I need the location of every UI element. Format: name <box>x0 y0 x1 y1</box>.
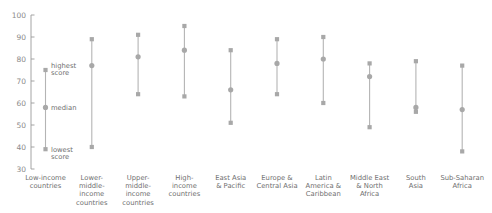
lowest-score-marker <box>368 125 372 129</box>
highest-score-marker <box>229 48 233 52</box>
lowest-score-marker <box>321 101 325 105</box>
range-marker-group <box>182 24 187 99</box>
x-axis-category-label: income <box>79 190 104 198</box>
x-axis-category-label: & North <box>356 182 382 190</box>
median-marker <box>228 87 233 92</box>
y-axis-tick-label: 70 <box>16 77 26 86</box>
y-axis-tick-label: 50 <box>16 121 26 130</box>
x-axis-category-label: middle- <box>79 182 105 190</box>
annotation-median: median <box>51 104 76 112</box>
x-axis-category-label: America & <box>306 182 342 190</box>
x-axis-category-label: middle- <box>125 182 151 190</box>
x-axis-category-label: Africa <box>453 182 472 190</box>
range-marker-group <box>228 48 233 125</box>
chart-canvas: 30405060708090100 Low-incomecountriesLow… <box>0 0 492 213</box>
median-marker <box>136 54 141 59</box>
highest-score-marker <box>90 37 94 41</box>
y-axis-tick-label: 30 <box>16 165 26 174</box>
range-chart: 30405060708090100 Low-incomecountriesLow… <box>0 0 492 213</box>
range-marker-group <box>321 35 326 105</box>
highest-score-marker <box>136 33 140 37</box>
median-marker <box>460 107 465 112</box>
highest-score-marker <box>368 61 372 65</box>
median-marker <box>274 61 279 66</box>
y-axis-tick-label: 40 <box>16 143 26 152</box>
lowest-score-marker <box>229 121 233 125</box>
x-axis-category-label: Upper- <box>127 174 150 182</box>
data-series-group <box>43 24 465 154</box>
highest-score-marker <box>414 59 418 63</box>
x-axis-category-label: countries <box>30 182 62 190</box>
range-marker-group <box>136 33 141 97</box>
x-axis-category-label: Lower- <box>81 174 104 182</box>
x-axis-category-label: Sub-Saharan <box>440 174 484 182</box>
annotation-lowest-score: score <box>51 153 69 161</box>
highest-score-marker <box>182 24 186 28</box>
x-axis-category-label: countries <box>169 190 201 198</box>
median-marker <box>89 63 94 68</box>
x-axis-category-labels: Low-incomecountriesLower-middle-incomeco… <box>25 174 484 207</box>
x-axis-category-label: income <box>172 182 197 190</box>
lowest-score-marker <box>182 94 186 98</box>
annotation-highest-score: score <box>51 69 69 77</box>
lowest-score-marker <box>43 147 47 151</box>
y-axis: 30405060708090100 <box>12 11 35 174</box>
highest-score-marker <box>460 64 464 68</box>
y-axis-tick-label: 90 <box>16 33 26 42</box>
lowest-score-marker <box>414 110 418 114</box>
x-axis-category-label: Asia <box>409 182 423 190</box>
median-marker <box>182 48 187 53</box>
lowest-score-marker <box>136 92 140 96</box>
y-axis-tick-label: 100 <box>12 11 27 20</box>
x-axis-category-label: countries <box>122 199 154 207</box>
x-axis-category-label: Low-income <box>25 174 66 182</box>
range-marker-group <box>43 68 48 151</box>
x-axis-category-label: Latin <box>315 174 332 182</box>
annotation-group: highestscoremedianlowestscore <box>51 62 77 162</box>
range-marker-group <box>89 37 94 149</box>
y-axis-tick-label: 60 <box>16 99 26 108</box>
x-axis-category-label: Africa <box>360 190 379 198</box>
x-axis-category-label: & Pacific <box>216 182 245 190</box>
range-marker-group <box>413 59 418 114</box>
highest-score-marker <box>321 35 325 39</box>
highest-score-marker <box>43 68 47 72</box>
x-axis-category-label: High- <box>175 174 194 182</box>
range-marker-group <box>460 64 465 154</box>
median-marker <box>43 105 48 110</box>
x-axis-category-label: Caribbean <box>306 190 341 198</box>
lowest-score-marker <box>90 145 94 149</box>
x-axis-category-label: South <box>406 174 426 182</box>
x-axis-category-label: Central Asia <box>256 182 297 190</box>
x-axis-category-label: East Asia <box>215 174 246 182</box>
lowest-score-marker <box>275 92 279 96</box>
x-axis-category-label: Middle East <box>350 174 390 182</box>
y-axis-tick-label: 80 <box>16 55 26 64</box>
lowest-score-marker <box>460 149 464 153</box>
median-marker <box>321 56 326 61</box>
highest-score-marker <box>275 37 279 41</box>
median-marker <box>413 105 418 110</box>
x-axis-category-label: income <box>126 190 151 198</box>
range-marker-group <box>367 61 372 129</box>
median-marker <box>367 74 372 79</box>
x-axis-category-label: Europe & <box>261 174 293 182</box>
range-marker-group <box>274 37 279 96</box>
x-axis-category-label: countries <box>76 199 108 207</box>
